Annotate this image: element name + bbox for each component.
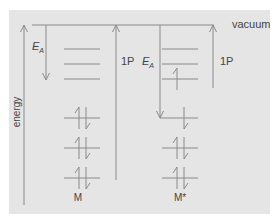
ea-label-m-star: EA (142, 55, 154, 69)
energy-axis: energy (11, 25, 28, 205)
species-label-m-star: M* (174, 192, 186, 203)
electron-affinity-arrow-m-star (157, 25, 164, 118)
energy-diagram: vacuum energy EA M 1P EA (0, 0, 279, 222)
energy-axis-label: energy (11, 97, 22, 128)
ionization-potential-arrow-m: 1P EA (113, 25, 155, 180)
vacuum-label: vacuum (232, 18, 271, 30)
m-filled-levels (64, 107, 100, 189)
m-empty-levels (64, 49, 100, 79)
m-star-filled-levels (160, 107, 198, 189)
electron-affinity-arrow-m: EA (32, 25, 50, 80)
m-star-empty-levels (162, 49, 198, 90)
species-label-m: M (74, 192, 82, 203)
ip-label-m: 1P (121, 55, 134, 67)
ea-label-m: EA (32, 40, 44, 54)
ip-label-m-star: 1P (220, 55, 233, 67)
ionization-potential-arrow-m-star: 1P (210, 25, 234, 88)
